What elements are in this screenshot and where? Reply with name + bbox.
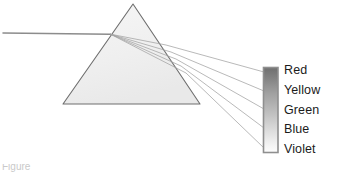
spectrum-bar — [264, 68, 279, 153]
incident-white-ray — [3, 33, 111, 34]
figure-caption-clipped: Figure — [0, 164, 338, 172]
prism-body — [63, 4, 200, 104]
prism-dispersion-figure: Red Yellow Green Blue Violet Figure — [0, 0, 338, 172]
dispersed-ray-violet — [186, 73, 264, 148]
dispersion-diagram — [0, 0, 338, 172]
figure-caption-text: Figure — [2, 164, 30, 172]
dispersed-ray-red — [166, 45, 264, 72]
